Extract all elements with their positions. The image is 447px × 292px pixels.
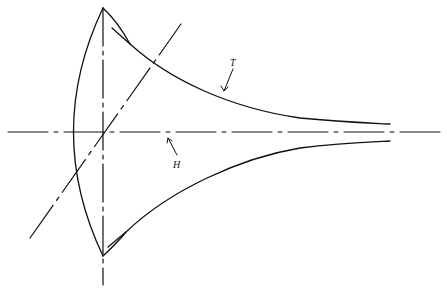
tractrix-diagram: T H — [0, 0, 447, 292]
arrow-to-tractrix — [224, 69, 233, 91]
arrow-to-axis — [168, 138, 177, 155]
label-t: T — [230, 57, 237, 68]
lower-cusp-tick — [108, 232, 126, 247]
tractrix-lower-branch — [103, 141, 390, 256]
tractrix-upper-branch — [103, 8, 390, 124]
label-h: H — [172, 159, 181, 170]
upper-cusp-tick — [112, 28, 130, 44]
